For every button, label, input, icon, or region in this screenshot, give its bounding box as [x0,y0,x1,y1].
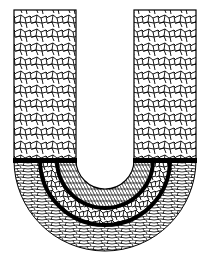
u-shape-grain-diagram [0,0,210,262]
right-arm [134,10,196,160]
horizontal-bar-left [13,158,77,163]
left-arm [14,10,76,160]
horizontal-bar-right [133,158,197,163]
